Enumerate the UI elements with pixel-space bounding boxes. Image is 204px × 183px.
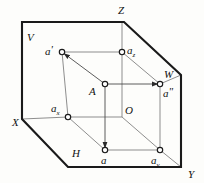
diagram-canvas: X Y Z W V H O a' az A a" ax a a bbox=[0, 0, 204, 183]
node-a-y bbox=[157, 147, 162, 152]
node-a-point bbox=[102, 81, 107, 86]
node-a-prime bbox=[59, 49, 64, 54]
axis-label-z: Z bbox=[118, 4, 125, 16]
label-a-double-prime-mark: " bbox=[169, 85, 174, 97]
axis-label-x: X bbox=[11, 116, 20, 128]
label-a-double-prime: a" bbox=[163, 85, 174, 99]
origin-label-o: O bbox=[125, 104, 133, 116]
plane-label-h: H bbox=[71, 147, 81, 159]
label-a-z-sub: z bbox=[132, 51, 136, 59]
node-a-z bbox=[119, 49, 124, 54]
label-a-prime: a' bbox=[45, 43, 54, 57]
projection-diagram: X Y Z W V H O a' az A a" ax a a bbox=[0, 0, 204, 183]
node-a-horizontal bbox=[102, 147, 107, 152]
node-a-double-prime bbox=[157, 81, 162, 86]
node-a-x bbox=[65, 114, 70, 119]
label-a-horizontal: a bbox=[101, 154, 107, 166]
label-a-point: A bbox=[88, 85, 96, 97]
axis-label-w: W bbox=[164, 68, 174, 80]
